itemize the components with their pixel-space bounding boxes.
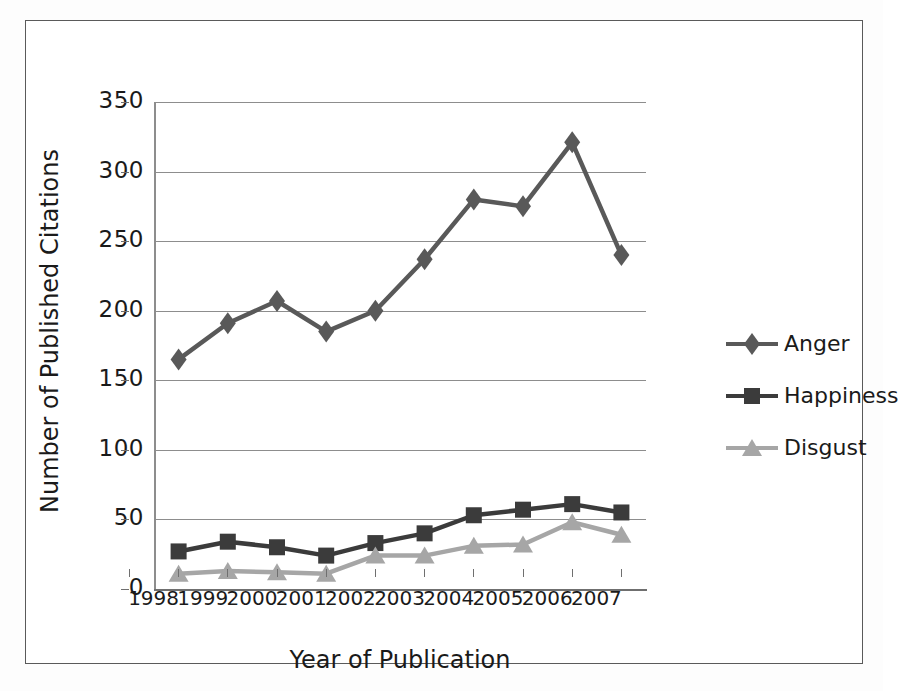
- y-tick-mark: [121, 172, 129, 173]
- data-point: [220, 534, 236, 550]
- series-line: [179, 522, 622, 573]
- data-point: [220, 312, 236, 334]
- x-tick-mark: [277, 569, 278, 577]
- y-tick-mark: [121, 450, 129, 451]
- series-anger: [171, 131, 630, 370]
- x-tick-mark: [473, 569, 474, 577]
- x-tick-mark: [523, 569, 524, 577]
- legend-label: Anger: [784, 331, 850, 356]
- legend-marker-square-icon: [740, 384, 764, 408]
- data-point: [417, 525, 433, 541]
- y-tick-label: 150: [99, 365, 144, 391]
- data-point: [564, 496, 580, 512]
- x-tick-mark: [129, 569, 130, 577]
- legend-swatch: [726, 332, 778, 354]
- legend-swatch: [726, 436, 778, 458]
- x-tick-mark: [621, 569, 622, 577]
- y-axis-title: Number of Published Citations: [36, 111, 64, 551]
- x-axis-title: Year of Publication: [154, 646, 646, 674]
- plot-area: [154, 102, 646, 589]
- y-tick-label: 350: [99, 87, 144, 113]
- x-tick-mark: [424, 569, 425, 577]
- data-point: [171, 543, 187, 559]
- x-tick-mark: [375, 569, 376, 577]
- x-tick-label: 2007: [561, 586, 631, 610]
- data-point: [269, 539, 285, 555]
- chart-legend: AngerHappinessDisgust: [726, 317, 886, 473]
- x-tick-mark: [326, 569, 327, 577]
- y-tick-mark: [121, 380, 129, 381]
- chart-frame: 050100150200250300350 Number of Publishe…: [25, 20, 863, 664]
- y-axis-line: [154, 102, 156, 590]
- legend-label: Happiness: [784, 383, 898, 408]
- data-point: [466, 507, 482, 523]
- legend-item-disgust[interactable]: Disgust: [726, 421, 886, 473]
- data-point: [318, 321, 334, 343]
- y-tick-label: 200: [99, 296, 144, 322]
- y-tick-mark: [121, 102, 129, 103]
- y-tick-mark: [121, 311, 129, 312]
- legend-label: Disgust: [784, 435, 867, 460]
- data-point: [318, 548, 334, 564]
- x-tick-mark: [178, 569, 179, 577]
- data-point: [269, 290, 285, 312]
- legend-marker-triangle-icon: [740, 436, 764, 460]
- y-tick-mark: [121, 241, 129, 242]
- legend-item-anger[interactable]: Anger: [726, 317, 886, 369]
- y-tick-label: 100: [99, 435, 144, 461]
- x-tick-mark: [227, 569, 228, 577]
- data-point: [171, 348, 187, 370]
- y-tick-mark: [121, 519, 129, 520]
- series-lines: [154, 102, 646, 589]
- series-line: [179, 142, 622, 359]
- legend-item-happiness[interactable]: Happiness: [726, 369, 886, 421]
- y-tick-label: 50: [114, 504, 144, 530]
- data-point: [613, 504, 629, 520]
- data-point: [515, 502, 531, 518]
- y-tick-label: 250: [99, 226, 144, 252]
- legend-swatch: [726, 384, 778, 406]
- y-tick-label: 300: [99, 157, 144, 183]
- x-tick-mark: [572, 569, 573, 577]
- series-disgust: [169, 513, 632, 581]
- legend-marker-diamond-icon: [740, 332, 764, 356]
